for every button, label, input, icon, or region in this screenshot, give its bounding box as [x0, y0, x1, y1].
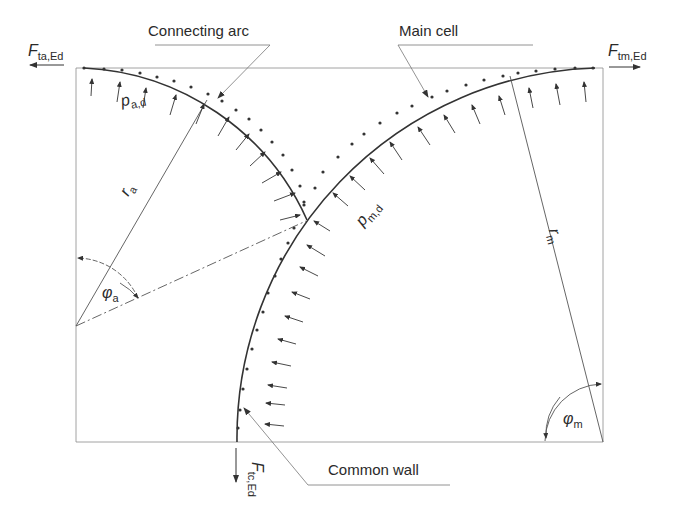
radius-m-line [510, 76, 603, 442]
phi-m-subscript: m [573, 418, 582, 430]
connecting-arc [82, 66, 307, 220]
pressure-arrows-m [265, 82, 586, 426]
radius-a-line [76, 100, 207, 326]
f-ta-symbol: F [28, 42, 38, 59]
phi-a-symbol: φ [102, 284, 112, 301]
main-cell-arc [236, 66, 595, 442]
label-f-tc: Ftc,Ed [246, 462, 266, 497]
f-ta-subscript: ta,Ed [38, 50, 64, 62]
f-tc-subscript: tc,Ed [246, 472, 258, 497]
label-connecting-arc: Connecting arc [148, 22, 249, 39]
phi-a-subscript: a [112, 292, 118, 304]
cell-geometry-diagram [0, 0, 683, 518]
label-phi-a: φa [102, 284, 119, 304]
intersection-line [76, 221, 306, 326]
label-common-wall: Common wall [328, 461, 419, 478]
label-phi-m: φm [563, 410, 583, 430]
phi-m-symbol: φ [563, 410, 573, 427]
label-f-tm: Ftm,Ed [608, 42, 647, 62]
label-f-ta: Fta,Ed [28, 42, 63, 62]
f-tm-subscript: tm,Ed [618, 50, 647, 62]
bounding-frame [76, 68, 603, 442]
f-tm-symbol: F [608, 42, 618, 59]
f-tc-symbol: F [249, 462, 266, 472]
label-main-cell: Main cell [399, 22, 458, 39]
callout-leaders [155, 45, 533, 485]
